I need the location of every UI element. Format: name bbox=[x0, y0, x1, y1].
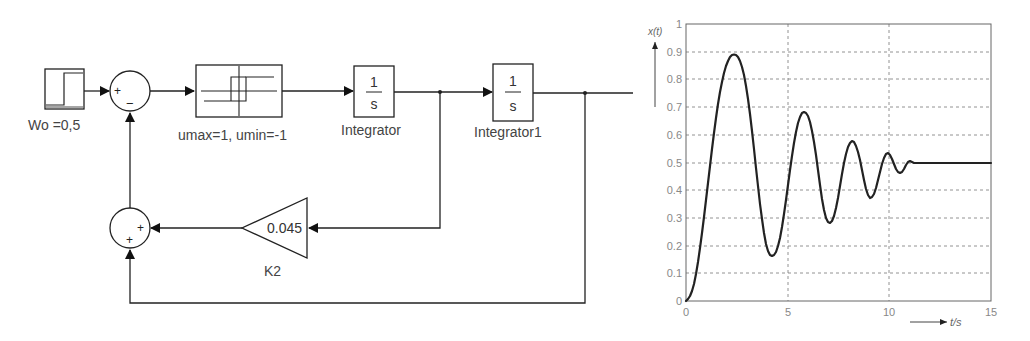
integrator-denominator: s bbox=[371, 96, 378, 112]
svg-text:0.5: 0.5 bbox=[667, 157, 682, 169]
sum2-plus-right: + bbox=[137, 221, 144, 235]
integrator1-numerator: 1 bbox=[509, 73, 517, 89]
integrator1-denominator: s bbox=[510, 98, 517, 114]
svg-text:1: 1 bbox=[676, 18, 682, 30]
svg-text:10: 10 bbox=[883, 306, 895, 318]
response-curve bbox=[686, 55, 991, 302]
svg-text:15: 15 bbox=[985, 306, 997, 318]
step-label: Wo =0,5 bbox=[28, 117, 80, 133]
svg-text:0.2: 0.2 bbox=[667, 240, 682, 252]
svg-text:5: 5 bbox=[785, 306, 791, 318]
gain-label: K2 bbox=[264, 263, 281, 279]
sum1-plus-sign: + bbox=[114, 84, 121, 98]
svg-text:0.4: 0.4 bbox=[667, 184, 682, 196]
relay-block[interactable] bbox=[196, 65, 282, 117]
svg-text:0.1: 0.1 bbox=[667, 267, 682, 279]
sum2-plus-bottom: + bbox=[126, 233, 133, 247]
step-block[interactable] bbox=[45, 69, 84, 109]
relay-label: umax=1, umin=-1 bbox=[178, 127, 287, 143]
svg-text:0: 0 bbox=[676, 295, 682, 307]
svg-text:0: 0 bbox=[683, 306, 689, 318]
y-tick-labels: 0 0.1 0.2 0.3 0.4 0.5 0.6 0.7 0.8 0.9 1 bbox=[667, 18, 682, 307]
integrator1-label: Integrator1 bbox=[474, 124, 542, 140]
block-diagram: Wo =0,5 + − umax=1, umin=-1 1 s bbox=[28, 64, 633, 303]
svg-text:0.9: 0.9 bbox=[667, 46, 682, 58]
integrator-label: Integrator bbox=[341, 122, 401, 138]
svg-text:0.6: 0.6 bbox=[667, 129, 682, 141]
svg-text:0.7: 0.7 bbox=[667, 101, 682, 113]
integrator-numerator: 1 bbox=[370, 74, 378, 90]
svg-text:0.3: 0.3 bbox=[667, 212, 682, 224]
gain-value: 0.045 bbox=[267, 220, 302, 236]
x-axis-label: t/s bbox=[950, 316, 962, 328]
svg-text:0.8: 0.8 bbox=[667, 73, 682, 85]
figure: Wo =0,5 + − umax=1, umin=-1 1 s bbox=[0, 0, 1030, 341]
y-axis-label: x(t) bbox=[647, 26, 662, 37]
chart: 0 0.1 0.2 0.3 0.4 0.5 0.6 0.7 0.8 0.9 1 … bbox=[647, 18, 997, 328]
sum1-minus-sign: − bbox=[126, 96, 134, 111]
